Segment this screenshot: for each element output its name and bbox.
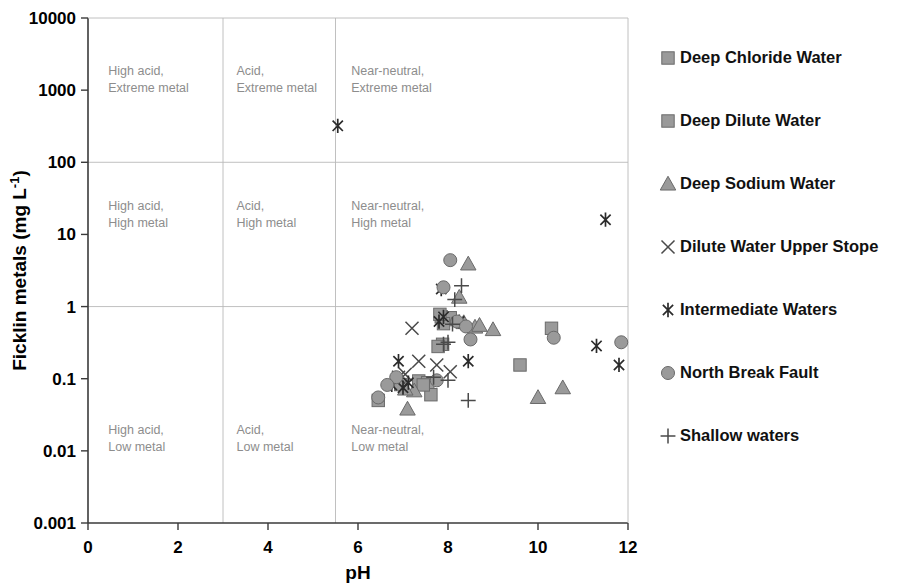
legend-marker-0 xyxy=(662,52,674,64)
legend-item-6[interactable]: Shallow waters xyxy=(661,426,800,444)
marker-asterisk xyxy=(600,213,610,227)
marker-square xyxy=(662,52,674,64)
data-point-3-3 xyxy=(412,355,425,368)
legend-item-5[interactable]: North Break Fault xyxy=(661,363,818,381)
quadrant-label-2-line1: Near-neutral, xyxy=(351,64,424,78)
data-point-2-1 xyxy=(452,289,468,303)
data-point-6-5 xyxy=(461,393,476,408)
quadrant-label-5-line2: High metal xyxy=(351,216,411,230)
marker-asterisk xyxy=(614,358,624,372)
data-point-3-0 xyxy=(405,322,418,335)
data-point-5-6 xyxy=(615,336,628,349)
data-point-5-8 xyxy=(381,378,394,391)
quadrant-label-6-line1: High acid, xyxy=(108,423,164,437)
marker-triangle xyxy=(400,401,416,415)
x-tick-label-0: 0 xyxy=(83,538,92,557)
data-point-2-0 xyxy=(461,256,477,270)
marker-plus xyxy=(454,278,469,293)
data-point-5-1 xyxy=(437,281,450,294)
marker-x xyxy=(412,355,425,368)
data-point-4-0 xyxy=(333,119,343,133)
data-point-2-7 xyxy=(485,322,501,336)
quadrant-label-7-line1: Acid, xyxy=(237,423,265,437)
legend-label-0: Deep Chloride Water xyxy=(680,48,842,66)
legend-item-4[interactable]: Intermediate Waters xyxy=(663,300,837,318)
data-point-3-2 xyxy=(444,365,457,378)
data-point-2-8 xyxy=(555,380,571,394)
legend-label-4: Intermediate Waters xyxy=(680,300,837,318)
x-tick-label-3: 6 xyxy=(353,538,362,557)
data-point-4-7 xyxy=(591,339,601,353)
marker-triangle xyxy=(485,322,501,336)
legend-label-2: Deep Sodium Water xyxy=(680,174,836,192)
y-tick-label-1: 0.01 xyxy=(43,442,76,461)
marker-circle xyxy=(437,281,450,294)
marker-asterisk xyxy=(463,354,473,368)
legend-label-3: Dilute Water Upper Stope xyxy=(680,237,878,255)
data-point-4-9 xyxy=(393,354,403,368)
marker-triangle xyxy=(555,380,571,394)
quadrant-label-4-line2: High metal xyxy=(237,216,297,230)
quadrant-label-3-line1: High acid, xyxy=(108,199,164,213)
chart-canvas: 0.0010.010.1110100100010000024681012pHFi… xyxy=(0,0,916,585)
y-tick-label-5: 100 xyxy=(48,153,76,172)
quadrant-label-2-line2: Extreme metal xyxy=(351,81,432,95)
quadrant-label-8-line1: Near-neutral, xyxy=(351,423,424,437)
x-axis-title: pH xyxy=(345,562,370,583)
y-tick-label-2: 0.1 xyxy=(52,370,76,389)
quadrant-label-4-line1: Acid, xyxy=(237,199,265,213)
marker-circle xyxy=(661,366,674,379)
quadrant-label-1-line1: Acid, xyxy=(237,64,265,78)
legend-marker-3 xyxy=(661,240,674,253)
marker-x xyxy=(405,322,418,335)
marker-circle xyxy=(615,336,628,349)
legend-marker-2 xyxy=(660,176,676,190)
marker-x xyxy=(661,240,674,253)
marker-circle xyxy=(547,331,560,344)
marker-square xyxy=(417,379,429,391)
legend-item-2[interactable]: Deep Sodium Water xyxy=(660,174,836,192)
marker-circle xyxy=(464,333,477,346)
marker-x xyxy=(444,365,457,378)
x-tick-label-4: 8 xyxy=(443,538,452,557)
data-point-5-9 xyxy=(372,391,385,404)
legend-label-6: Shallow waters xyxy=(680,426,799,444)
legend-item-0[interactable]: Deep Chloride Water xyxy=(662,48,842,66)
marker-circle xyxy=(372,391,385,404)
marker-triangle xyxy=(660,176,676,190)
data-point-6-0 xyxy=(454,278,469,293)
marker-asterisk xyxy=(663,303,673,317)
data-point-5-0 xyxy=(444,254,457,267)
marker-square xyxy=(662,115,674,127)
marker-circle xyxy=(459,320,472,333)
data-point-5-4 xyxy=(464,333,477,346)
data-point-4-8 xyxy=(614,358,624,372)
marker-triangle xyxy=(461,256,477,270)
legend-marker-6 xyxy=(661,429,676,444)
marker-x xyxy=(430,358,443,371)
x-tick-label-1: 2 xyxy=(173,538,182,557)
marker-asterisk xyxy=(591,339,601,353)
y-axis-title: Ficklin metals (mg L-1) xyxy=(7,170,31,371)
marker-plus xyxy=(661,429,676,444)
x-tick-label-6: 12 xyxy=(619,538,638,557)
marker-asterisk xyxy=(393,354,403,368)
quadrant-label-0-line1: High acid, xyxy=(108,64,164,78)
legend-item-3[interactable]: Dilute Water Upper Stope xyxy=(661,237,878,255)
marker-circle xyxy=(444,254,457,267)
ficklin-metals-scatter-chart: 0.0010.010.1110100100010000024681012pHFi… xyxy=(0,0,916,585)
y-tick-label-4: 10 xyxy=(57,225,76,244)
y-tick-label-3: 1 xyxy=(67,298,76,317)
legend-item-1[interactable]: Deep Dilute Water xyxy=(662,111,821,129)
series-4 xyxy=(333,119,625,395)
data-point-5-3 xyxy=(459,320,472,333)
legend: Deep Chloride WaterDeep Dilute WaterDeep… xyxy=(660,48,878,444)
quadrant-label-6-line2: Low metal xyxy=(108,440,165,454)
marker-triangle xyxy=(530,390,546,404)
marker-square xyxy=(514,359,526,371)
x-tick-label-5: 10 xyxy=(529,538,548,557)
quadrant-label-5-line1: Near-neutral, xyxy=(351,199,424,213)
y-tick-label-6: 1000 xyxy=(38,81,76,100)
data-point-3-1 xyxy=(430,358,443,371)
data-point-4-1 xyxy=(600,213,610,227)
